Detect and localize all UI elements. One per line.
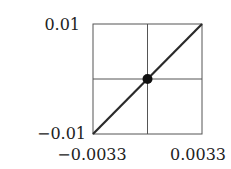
- x-tick-label-left: −0.0033: [57, 145, 126, 164]
- chart: 0.01 −0.01 −0.0033 0.0033: [0, 0, 231, 169]
- y-tick-label-bottom: −0.01: [37, 124, 86, 143]
- x-tick-label-right: 0.0033: [170, 145, 226, 164]
- point-layer: [143, 74, 153, 84]
- data-point-origin: [143, 74, 153, 84]
- y-tick-label-top: 0.01: [44, 15, 80, 34]
